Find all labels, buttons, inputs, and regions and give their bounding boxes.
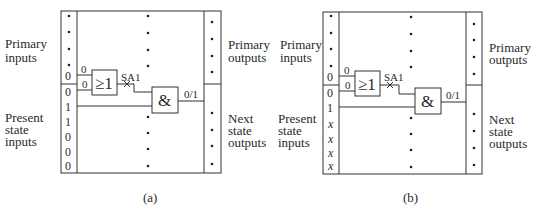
fault-label: SA1: [384, 71, 404, 83]
caption-b: (b): [403, 190, 418, 205]
primary-input-value: 0: [65, 69, 71, 83]
present-state-value: 0: [65, 130, 71, 144]
present-state-value: 0: [65, 85, 71, 99]
caption-a: (a): [143, 190, 157, 205]
and-output-value: 0/1: [446, 89, 460, 101]
next-state-label-line3: outputs: [228, 135, 266, 150]
present-state-label-line3: inputs: [278, 135, 310, 150]
present-state-value: 1: [65, 115, 71, 129]
present-state-value: 0: [327, 86, 333, 100]
or-input-value: 0: [81, 63, 87, 75]
primary-inputs-label-line2: inputs: [280, 50, 312, 65]
or-input-value: 0: [344, 64, 350, 76]
panel-b: Primary inputs Present state inputs Prim…: [278, 12, 531, 205]
and-output-value: 0/1: [184, 88, 198, 100]
or-gate-symbol: ≥1: [95, 74, 113, 93]
present-state-value: 0: [65, 145, 71, 159]
present-state-value: x: [327, 117, 334, 131]
next-state-label-line3: outputs: [489, 136, 527, 151]
primary-outputs-label-line2: outputs: [489, 52, 527, 67]
primary-input-value: 0: [327, 70, 333, 84]
present-state-value: 1: [65, 100, 71, 114]
primary-inputs-label-line1: Primary: [5, 36, 47, 51]
present-state-value: x: [327, 132, 334, 146]
and-gate-symbol: &: [158, 91, 171, 110]
primary-inputs-label-line2: inputs: [5, 50, 37, 65]
present-state-value: x: [327, 146, 334, 160]
present-state-value: 0: [65, 159, 71, 173]
panel-a: Primary inputs Present state inputs Prim…: [5, 11, 270, 205]
present-state-value: x: [327, 159, 334, 173]
present-state-value: 1: [327, 101, 333, 115]
or-gate-symbol: ≥1: [358, 75, 376, 94]
or-input-value: 0: [345, 79, 351, 91]
or-input-value: 0: [82, 78, 88, 90]
figure: Primary inputs Present state inputs Prim…: [0, 0, 540, 213]
and-gate-symbol: &: [421, 92, 434, 111]
primary-outputs-label-line2: outputs: [228, 50, 266, 65]
present-state-label-line3: inputs: [5, 134, 37, 149]
